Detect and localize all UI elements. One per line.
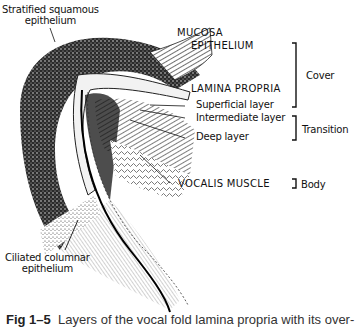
transition-label: Transition [302, 124, 348, 135]
figure-number: Fig 1–5 [6, 312, 51, 327]
body-bracket [292, 179, 296, 188]
vocal-fold-illustration [0, 0, 355, 333]
vocalis-muscle-label: VOCALIS MUSCLE [178, 178, 270, 189]
ciliated-columnar-label: Ciliated columnar epithelium [5, 252, 90, 274]
stratified-line-1: Stratified squamous [2, 4, 99, 15]
superficial-layer-label: Superficial layer [196, 99, 274, 110]
intermediate-layer-label: Intermediate layer [196, 112, 285, 123]
cover-label: Cover [306, 70, 334, 81]
figure-caption: Fig 1–5 Layers of the vocal fold lamina … [6, 312, 354, 327]
cover-bracket [292, 43, 296, 107]
stratified-squamous-label: Stratified squamous epithelium [2, 4, 99, 26]
ciliated-line-1: Ciliated columnar [5, 252, 90, 263]
caption-text: Layers of the vocal fold lamina propria … [58, 312, 354, 327]
lamina-propria-label: LAMINA PROPRIA [191, 83, 281, 94]
ciliated-line-2: epithelium [5, 263, 90, 274]
transition-bracket [292, 116, 296, 140]
mucosa-label: MUCOSA [177, 27, 223, 38]
body-label: Body [301, 179, 325, 190]
deep-layer-label: Deep layer [196, 131, 249, 142]
epithelium-label: EPITHELIUM [191, 40, 254, 51]
stratified-line-2: epithelium [2, 15, 99, 26]
